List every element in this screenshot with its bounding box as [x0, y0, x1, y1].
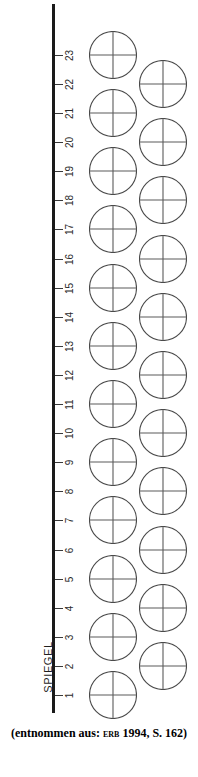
- node-circle-3: [89, 613, 137, 661]
- node-circle-4: [139, 584, 187, 632]
- caption-author: Erb: [103, 726, 119, 740]
- caption-prefix: (entnommen aus:: [11, 726, 103, 740]
- figure-caption: (entnommen aus: Erb 1994, S. 162): [0, 726, 198, 741]
- node-circle-16: [139, 235, 187, 283]
- axis-tick-label-10: 10: [63, 423, 76, 445]
- node-circle-15: [89, 264, 137, 312]
- axis-tick-label-14: 14: [63, 306, 76, 328]
- node-circle-13: [89, 322, 137, 370]
- node-circle-17: [89, 205, 137, 253]
- node-circle-8: [139, 467, 187, 515]
- node-circle-18: [139, 176, 187, 224]
- node-circle-1: [89, 671, 137, 719]
- axis-tick-label-19: 19: [63, 161, 76, 183]
- axis-tick-label-23: 23: [63, 44, 76, 66]
- axis-tick-label-8: 8: [63, 481, 76, 503]
- axis-tick-label-4: 4: [63, 597, 76, 619]
- node-circle-2: [139, 642, 187, 690]
- axis-tick-label-12: 12: [63, 364, 76, 386]
- node-circle-7: [89, 496, 137, 544]
- axis-tick-label-18: 18: [63, 190, 76, 212]
- axis-tick-label-21: 21: [63, 103, 76, 125]
- axis-tick-label-22: 22: [63, 73, 76, 95]
- node-circle-6: [139, 526, 187, 574]
- node-circle-12: [139, 351, 187, 399]
- node-circle-11: [89, 380, 137, 428]
- axis-tick-label-9: 9: [63, 452, 76, 474]
- caption-year: 1994: [122, 726, 146, 740]
- axis-tick-label-15: 15: [63, 277, 76, 299]
- node-circle-10: [139, 409, 187, 457]
- node-circle-19: [89, 147, 137, 195]
- axis-tick-label-3: 3: [63, 626, 76, 648]
- axis-tick-label-20: 20: [63, 132, 76, 154]
- axis-tick-label-17: 17: [63, 219, 76, 241]
- node-circle-20: [139, 118, 187, 166]
- axis-tick-label-6: 6: [63, 539, 76, 561]
- node-circle-9: [89, 438, 137, 486]
- axis-title-spiegel: SPIEGEL: [41, 627, 55, 707]
- axis-tick-label-11: 11: [63, 394, 76, 416]
- axis-tick-label-7: 7: [63, 510, 76, 532]
- axis-tick-label-16: 16: [63, 248, 76, 270]
- node-circle-22: [139, 60, 187, 108]
- node-circle-21: [89, 89, 137, 137]
- node-circle-14: [139, 293, 187, 341]
- axis-tick-label-2: 2: [63, 655, 76, 677]
- spiegel-diagram: 1234567891011121314151617181920212223 SP…: [0, 0, 198, 722]
- spiegel-axis-line: [52, 4, 55, 713]
- caption-page: , S. 162): [146, 726, 187, 740]
- axis-tick-label-5: 5: [63, 568, 76, 590]
- figure-page: 1234567891011121314151617181920212223 SP…: [0, 0, 198, 777]
- axis-tick-label-13: 13: [63, 335, 76, 357]
- node-circle-5: [89, 555, 137, 603]
- axis-tick-label-1: 1: [63, 685, 76, 707]
- node-circle-23: [89, 31, 137, 79]
